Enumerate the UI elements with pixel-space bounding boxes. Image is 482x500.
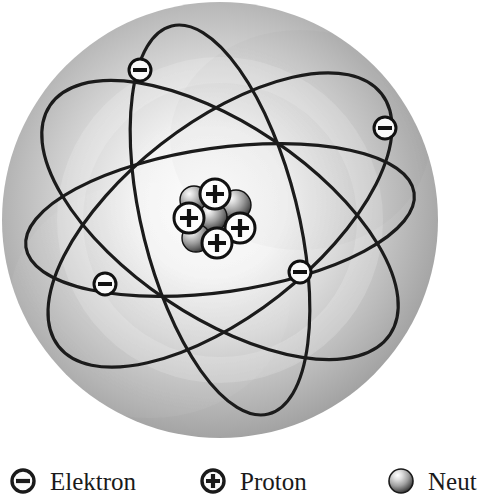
proton-icon	[198, 466, 228, 496]
proton-bottom	[202, 228, 232, 258]
electron-right	[374, 117, 396, 139]
legend: Elektron Proton	[0, 462, 482, 500]
legend-label-electron: Elektron	[50, 469, 136, 494]
neutron-icon	[386, 466, 416, 496]
legend-label-proton: Proton	[240, 469, 307, 494]
proton-top	[200, 179, 230, 209]
electron-top-left	[129, 59, 151, 81]
atom-figure	[0, 0, 482, 460]
electron-bottom-right	[289, 261, 311, 283]
legend-item-neutron: Neut	[386, 462, 477, 500]
legend-item-proton: Proton	[198, 462, 307, 500]
electron-bottom-left	[94, 273, 116, 295]
electron-icon	[8, 466, 38, 496]
atom-diagram-page: Elektron Proton	[0, 0, 482, 500]
legend-item-electron: Elektron	[8, 462, 136, 500]
proton-left	[174, 203, 204, 233]
legend-label-neutron: Neut	[428, 469, 477, 494]
